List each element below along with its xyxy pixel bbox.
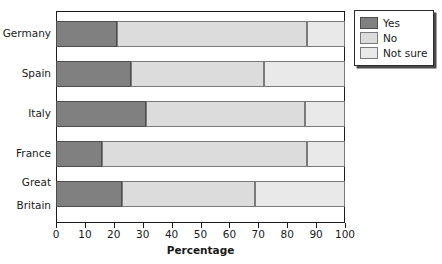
legend-swatch-no-icon: [360, 32, 378, 44]
legend-item-yes: Yes: [360, 16, 429, 30]
bar-segment-no: [131, 61, 264, 87]
x-axis-tick-label: 30: [128, 228, 158, 240]
legend-item-not-sure: Not sure: [360, 46, 429, 60]
bar-segment-no: [122, 181, 255, 207]
category-label-france: France: [0, 141, 51, 167]
x-axis-tick-label: 20: [99, 228, 129, 240]
bar-segment-not-sure: [307, 141, 345, 167]
x-axis-tick-label: 80: [272, 228, 302, 240]
category-label-spain: Spain: [0, 61, 51, 87]
x-axis-tick-label: 40: [157, 228, 187, 240]
legend-item-no: No: [360, 31, 429, 45]
category-label-great-britain: Great Britain: [0, 181, 51, 207]
legend-swatch-not-sure-icon: [360, 47, 378, 59]
bar-segment-not-sure: [305, 101, 345, 127]
category-label-germany: Germany: [0, 21, 51, 47]
bar-segment-yes: [56, 141, 102, 167]
x-axis-tick-label: 10: [70, 228, 100, 240]
x-axis-tick-label: 90: [301, 228, 331, 240]
bar-segment-not-sure: [255, 181, 345, 207]
category-label-italy: Italy: [0, 101, 51, 127]
x-axis-tick-label: 0: [41, 228, 71, 240]
bar-segment-not-sure: [264, 61, 345, 87]
x-axis-title: Percentage: [56, 244, 345, 256]
stacked-bar-chart: Germany Spain Italy France Great Britain…: [0, 0, 442, 264]
bar-segment-no: [102, 141, 307, 167]
bar-segment-no: [117, 21, 308, 47]
legend-swatch-yes-icon: [360, 17, 378, 29]
bar-segment-yes: [56, 181, 122, 207]
bar-segment-not-sure: [307, 21, 345, 47]
x-axis-tick-label: 60: [214, 228, 244, 240]
bar-segment-yes: [56, 21, 117, 47]
bar-segment-no: [146, 101, 305, 127]
legend-label-no: No: [383, 32, 397, 44]
bar-segment-yes: [56, 101, 146, 127]
legend: Yes No Not sure: [354, 10, 434, 66]
legend-label-not-sure: Not sure: [383, 47, 427, 59]
bar-segment-yes: [56, 61, 131, 87]
x-axis-tick-label: 50: [186, 228, 216, 240]
legend-label-yes: Yes: [383, 17, 400, 29]
x-axis-tick-label: 100: [330, 228, 360, 240]
x-axis-tick-label: 70: [243, 228, 273, 240]
